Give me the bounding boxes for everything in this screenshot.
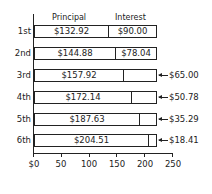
row-label: 3rd bbox=[3, 70, 31, 80]
principal-segment: $172.14 bbox=[35, 92, 131, 103]
principal-segment: $157.92 bbox=[35, 70, 123, 81]
principal-segment: $187.63 bbox=[35, 114, 139, 125]
interest-callout: $35.29 bbox=[159, 113, 199, 126]
interest-segment: $78.04 bbox=[115, 48, 156, 59]
x-tick bbox=[172, 153, 173, 157]
x-tick-label: 100 bbox=[81, 159, 97, 169]
row-label: 4th bbox=[3, 92, 31, 102]
interest-segment bbox=[139, 114, 156, 125]
row-label: 1st bbox=[3, 26, 31, 36]
principal-segment: $132.92 bbox=[35, 26, 108, 37]
x-tick bbox=[89, 153, 90, 157]
row-label: 5th bbox=[3, 114, 31, 124]
legend-principal: Principal bbox=[52, 13, 86, 22]
interest-segment bbox=[131, 92, 156, 103]
interest-segment bbox=[148, 135, 156, 146]
x-tick-label: 200 bbox=[137, 159, 153, 169]
x-tick bbox=[33, 153, 34, 157]
x-tick-label: 150 bbox=[109, 159, 125, 169]
legend-interest: Interest bbox=[115, 13, 146, 22]
principal-segment: $144.88 bbox=[35, 48, 115, 59]
row-label: 2nd bbox=[3, 48, 31, 58]
x-tick-label: $0 bbox=[29, 159, 40, 169]
x-tick bbox=[61, 153, 62, 157]
interest-callout: $65.00 bbox=[159, 69, 199, 82]
arrow-icon bbox=[159, 97, 168, 98]
arrow-icon bbox=[159, 140, 168, 141]
principal-segment: $204.51 bbox=[35, 135, 148, 146]
x-tick-label: 50 bbox=[56, 159, 67, 169]
interest-segment bbox=[123, 70, 156, 81]
bar-row-6: $204.51 bbox=[34, 134, 157, 147]
arrow-icon bbox=[159, 119, 168, 120]
bar-row-5: $187.63 bbox=[34, 113, 157, 126]
arrow-icon bbox=[159, 75, 168, 76]
bar-row-4: $172.14 bbox=[34, 91, 157, 104]
x-tick bbox=[116, 153, 117, 157]
bar-row-2: $144.88 $78.04 bbox=[34, 47, 157, 60]
x-tick bbox=[144, 153, 145, 157]
interest-callout: $50.78 bbox=[159, 91, 199, 104]
interest-callout: $18.41 bbox=[159, 134, 199, 147]
bar-row-3: $157.92 bbox=[34, 69, 157, 82]
x-tick-label: 250 bbox=[165, 159, 181, 169]
x-axis bbox=[33, 153, 173, 154]
row-label: 6th bbox=[3, 135, 31, 145]
interest-segment: $90.00 bbox=[108, 26, 156, 37]
bar-row-1: $132.92 $90.00 bbox=[34, 25, 157, 38]
